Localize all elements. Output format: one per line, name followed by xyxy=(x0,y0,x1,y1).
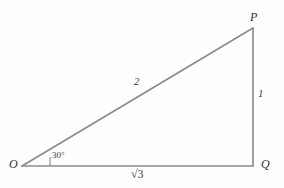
vertex-label-o: O xyxy=(9,158,18,170)
vertex-label-p: P xyxy=(250,11,257,23)
side-label-hypotenuse: 2 xyxy=(134,76,140,87)
side-label-vertical: 1 xyxy=(258,88,264,99)
hypotenuse-line xyxy=(22,28,253,166)
triangle-graphic xyxy=(0,0,284,188)
vertex-label-q: Q xyxy=(261,158,270,170)
angle-label-30-degrees: 30° xyxy=(52,151,65,160)
side-label-base: √3 xyxy=(131,168,144,180)
geometry-diagram: O P Q 2 1 √3 30° xyxy=(0,0,284,188)
